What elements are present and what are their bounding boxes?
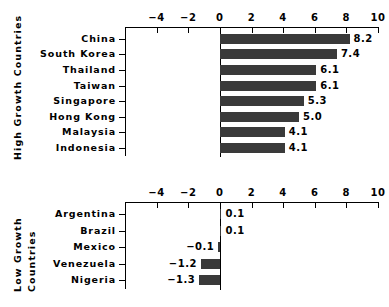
y-tick bbox=[119, 280, 125, 281]
bar bbox=[201, 259, 220, 269]
x-tick bbox=[252, 203, 253, 208]
category-label: Nigeria bbox=[0, 274, 116, 285]
value-label: 0.1 bbox=[225, 208, 244, 219]
value-label: −0.1 bbox=[172, 241, 214, 252]
category-label: Argentina bbox=[0, 208, 116, 219]
category-label: Venezuela bbox=[0, 258, 116, 269]
bar bbox=[218, 242, 220, 252]
y-tick bbox=[119, 264, 125, 265]
y-tick bbox=[119, 247, 125, 248]
y-tick bbox=[119, 214, 125, 215]
bar bbox=[220, 209, 222, 219]
x-tick-label: 10 bbox=[358, 187, 389, 198]
x-tick bbox=[157, 203, 158, 208]
value-label: 0.1 bbox=[225, 225, 244, 236]
x-tick bbox=[283, 203, 284, 208]
category-label: Brazil bbox=[0, 225, 116, 236]
value-label: −1.3 bbox=[153, 274, 195, 285]
y-tick bbox=[119, 231, 125, 232]
x-tick bbox=[315, 203, 316, 208]
chart-root: High Growth Countries Low Growth Countri… bbox=[0, 0, 389, 307]
bar bbox=[199, 275, 220, 285]
y-axis-spine bbox=[125, 202, 126, 289]
bar bbox=[220, 226, 222, 236]
value-label: −1.2 bbox=[155, 258, 197, 269]
category-label: Mexico bbox=[0, 241, 116, 252]
x-tick bbox=[346, 203, 347, 208]
x-tick bbox=[378, 203, 379, 208]
x-tick bbox=[188, 203, 189, 208]
panel-low-growth: −4−20246810Argentina0.1Brazil0.1Mexico−0… bbox=[0, 0, 389, 307]
